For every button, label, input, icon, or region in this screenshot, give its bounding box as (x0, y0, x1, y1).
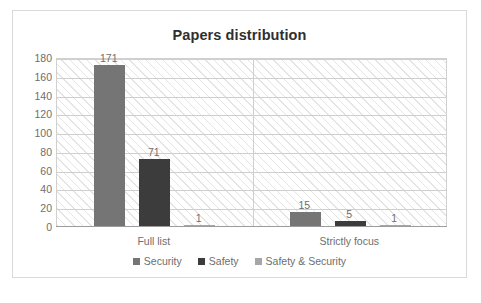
y-tick-label: 140 (22, 90, 52, 102)
bar-value-label: 71 (148, 146, 160, 158)
y-tick-label: 60 (22, 165, 52, 177)
y-tick-label: 120 (22, 108, 52, 120)
legend-label: Safety & Security (266, 255, 347, 267)
plot-area (56, 58, 447, 227)
bar-value-label: 1 (196, 212, 202, 224)
y-tick-label: 160 (22, 71, 52, 83)
y-tick-label: 0 (22, 221, 52, 233)
y-tick-label: 100 (22, 127, 52, 139)
legend-item[interactable]: Safety & Security (255, 255, 347, 267)
legend-label: Safety (209, 255, 239, 267)
y-tick-label: 20 (22, 202, 52, 214)
legend-label: Security (144, 255, 182, 267)
bar-value-label: 1 (391, 212, 397, 224)
x-category-label: Full list (137, 235, 170, 247)
bar[interactable] (139, 159, 170, 226)
x-axis-line (56, 226, 447, 227)
y-tick-label: 80 (22, 146, 52, 158)
chart-legend: SecuritySafetySafety & Security (13, 255, 466, 267)
bar[interactable] (94, 65, 125, 226)
legend-swatch-icon (255, 258, 262, 265)
bar[interactable] (290, 212, 321, 226)
y-axis-tick-labels: 020406080100120140160180 (21, 11, 52, 277)
chart-frame: Papers distribution 02040608010012014016… (12, 10, 467, 278)
bar-value-label: 171 (100, 52, 118, 64)
legend-swatch-icon (198, 258, 205, 265)
y-tick-label: 180 (22, 52, 52, 64)
chart-title: Papers distribution (13, 27, 466, 43)
legend-item[interactable]: Safety (198, 255, 239, 267)
legend-item[interactable]: Security (133, 255, 182, 267)
x-category-label: Strictly focus (319, 235, 379, 247)
bar-value-label: 15 (298, 199, 310, 211)
bar-value-label: 5 (346, 208, 352, 220)
category-separator-line (253, 59, 254, 226)
y-tick-label: 40 (22, 183, 52, 195)
legend-swatch-icon (133, 258, 140, 265)
